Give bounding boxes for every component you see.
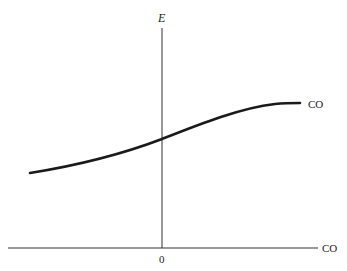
origin-label: 0: [159, 253, 165, 265]
curve-label: CO: [308, 98, 323, 110]
x-axis-label: CO: [322, 242, 337, 254]
co-curve: [30, 103, 300, 173]
diagram-canvas: E CO CO 0: [0, 0, 347, 271]
y-axis-label: E: [157, 11, 166, 25]
